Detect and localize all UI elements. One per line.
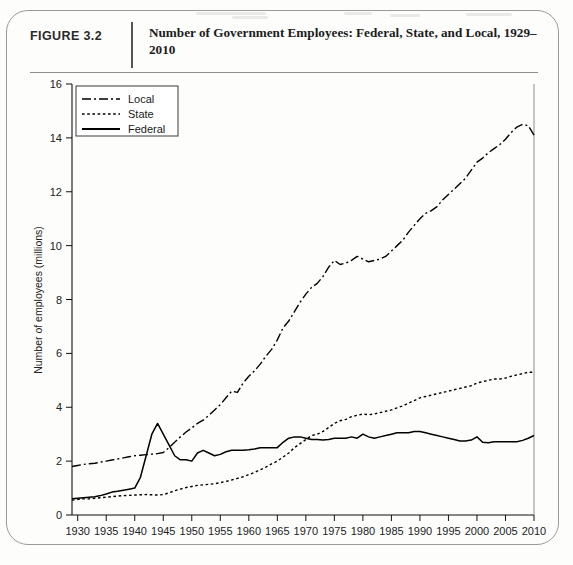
- chart-axes: [72, 84, 534, 515]
- x-tick-label: 1990: [408, 525, 432, 537]
- y-axis-ticks: 0246810121416: [50, 78, 72, 521]
- x-tick-label: 2000: [465, 525, 489, 537]
- legend-label-local[interactable]: Local: [128, 93, 154, 105]
- x-axis-ticks: 1930193519401945195019551960196519701975…: [65, 515, 546, 537]
- line-chart: 0246810121416 19301935194019451950195519…: [0, 0, 573, 565]
- x-tick-label: 1985: [379, 525, 403, 537]
- figure-page: FIGURE 3.2 Number of Government Employee…: [0, 0, 573, 565]
- x-tick-label: 2010: [522, 525, 546, 537]
- y-tick-label: 16: [50, 78, 62, 90]
- y-tick-label: 6: [56, 347, 62, 359]
- legend-label-state[interactable]: State: [128, 108, 154, 120]
- y-tick-label: 0: [56, 509, 62, 521]
- x-tick-label: 1930: [65, 525, 89, 537]
- y-tick-label: 12: [50, 186, 62, 198]
- chart-legend[interactable]: LocalStateFederal: [76, 86, 178, 136]
- y-tick-label: 2: [56, 455, 62, 467]
- x-tick-label: 1960: [237, 525, 261, 537]
- x-tick-label: 1995: [436, 525, 460, 537]
- y-tick-label: 4: [56, 401, 62, 413]
- x-tick-label: 1975: [322, 525, 346, 537]
- series-line-federal: [72, 423, 534, 498]
- x-tick-label: 1945: [151, 525, 175, 537]
- legend-label-federal[interactable]: Federal: [128, 123, 165, 135]
- x-tick-label: 1965: [265, 525, 289, 537]
- y-tick-label: 10: [50, 240, 62, 252]
- x-tick-label: 1935: [94, 525, 118, 537]
- x-tick-label: 1940: [122, 525, 146, 537]
- x-tick-label: 1950: [180, 525, 204, 537]
- chart-canvas: 0246810121416 19301935194019451950195519…: [0, 0, 573, 565]
- series-line-local: [72, 124, 534, 466]
- y-tick-label: 14: [50, 132, 62, 144]
- y-tick-label: 8: [56, 294, 62, 306]
- y-axis-title: Number of employees (millions): [32, 226, 44, 374]
- data-series-group: [72, 124, 534, 500]
- x-tick-label: 1955: [208, 525, 232, 537]
- x-tick-label: 1970: [294, 525, 318, 537]
- series-line-state: [72, 372, 534, 500]
- x-tick-label: 1980: [351, 525, 375, 537]
- x-tick-label: 2005: [493, 525, 517, 537]
